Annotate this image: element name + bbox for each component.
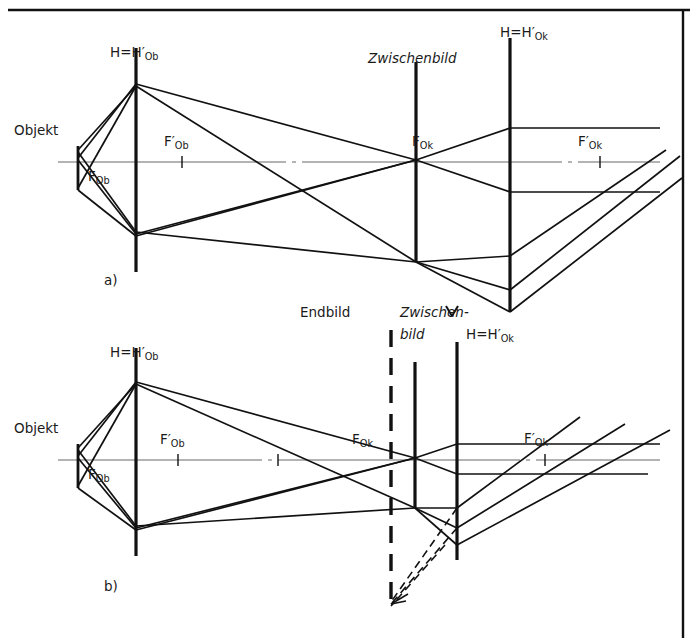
- subscript-ob: Ob: [145, 351, 159, 362]
- panel-a-eyepiece-back-focus-label: F′Ok: [578, 133, 602, 151]
- panel-b-eyepiece-front-focus-label: FOk: [352, 431, 373, 449]
- subscript-ok: Ok: [535, 437, 548, 448]
- subscript-ob: Ob: [171, 438, 185, 449]
- figure-canvas: Objekt H=H′Ob FOb F′Ob Zwischenbild H=H′…: [0, 0, 690, 638]
- f-text: F: [412, 133, 420, 149]
- panel-a-objective-plane-label: H=H′Ob: [110, 44, 159, 62]
- panel-a-objective-front-focus-label: FOb: [88, 168, 110, 186]
- panel-b-objective-plane-label: H=H′Ob: [110, 344, 159, 362]
- h-equals-text: H=H: [110, 344, 142, 360]
- f-text: F: [524, 430, 532, 446]
- panel-b-objective-front-focus-label: FOb: [88, 466, 110, 484]
- f-text: F: [352, 431, 360, 447]
- f-text: F: [88, 168, 96, 184]
- subscript-ok: Ok: [360, 438, 373, 449]
- panel-b-rays-lower: [78, 382, 415, 528]
- panel-a-eyepiece-front-focus-label: FOk: [412, 133, 433, 151]
- h-equals-text: H=H: [500, 24, 532, 40]
- panel-b-caption: b): [104, 578, 118, 594]
- panel-b-rays-axial: [78, 384, 415, 530]
- subscript-ob: Ob: [175, 140, 189, 151]
- panel-a-eyepiece-plane-label: H=H′Ok: [500, 24, 548, 42]
- h-equals-text: H=H: [110, 44, 142, 60]
- subscript-ob: Ob: [145, 51, 159, 62]
- subscript-ob: Ob: [96, 175, 110, 186]
- panel-b-intermediate-image-label-line1: Zwischen-: [400, 304, 469, 320]
- subscript-ob: Ob: [96, 473, 110, 484]
- panel-b-intermediate-image-label-line2: bild: [400, 326, 425, 342]
- f-text: F: [164, 133, 172, 149]
- panel-a-intermediate-image-label: Zwischenbild: [368, 50, 457, 66]
- panel-a-object-label: Objekt: [14, 122, 58, 138]
- panel-a-rays-lower: [78, 84, 416, 234]
- f-text: F: [160, 431, 168, 447]
- panel-b-objective-back-focus-label: F′Ob: [160, 431, 185, 449]
- subscript-ok: Ok: [420, 140, 433, 151]
- panel-a-rays-axial: [78, 86, 416, 236]
- subscript-ok: Ok: [501, 333, 514, 344]
- panel-b-object-label: Objekt: [14, 420, 58, 436]
- panel-b-rays-upper: [78, 384, 415, 526]
- subscript-ok: Ok: [535, 31, 548, 42]
- panel-b-eyepiece-back-focus-label: F′Ok: [524, 430, 548, 448]
- panel-a-objective-back-focus-label: F′Ob: [164, 133, 189, 151]
- h-equals-text: H=H: [466, 326, 498, 342]
- panel-b-eyepiece-plane-label: H=H′Ok: [466, 326, 514, 344]
- panel-a-eyepiece-upper-pencil: [416, 128, 660, 192]
- f-text: F: [578, 133, 586, 149]
- panel-b-virtual-rays: [391, 508, 457, 606]
- subscript-ok: Ok: [589, 140, 602, 151]
- panel-b-final-image-label: Endbild: [300, 304, 350, 320]
- panel-a-caption: a): [104, 272, 118, 288]
- f-text: F: [88, 466, 96, 482]
